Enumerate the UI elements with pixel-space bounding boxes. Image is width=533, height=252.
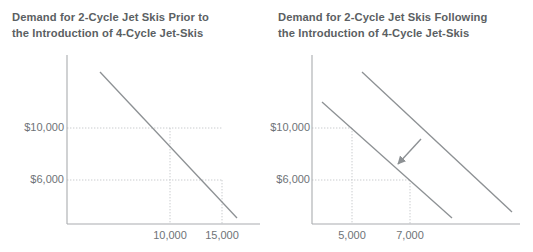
chart-panel-left: Demand for 2-Cycle Jet Skis Prior to the… (0, 0, 266, 252)
y-tick-label-10000: $10,000 (254, 121, 310, 133)
y-tick-label-10000: $10,000 (8, 121, 64, 133)
x-tick-label-5000: 5,000 (322, 229, 382, 241)
y-tick-label-6000: $6,000 (8, 173, 64, 185)
figure-container: Demand for 2-Cycle Jet Skis Prior to the… (0, 0, 533, 252)
x-tick-label-7000: 7,000 (380, 229, 440, 241)
chart-panel-right: Demand for 2-Cycle Jet Skis Following th… (266, 0, 533, 252)
demand-shift-arrow (398, 139, 421, 164)
demand-curve-original (362, 72, 512, 212)
x-tick-label-15000: 15,000 (188, 229, 256, 241)
demand-curve (100, 72, 237, 218)
y-tick-label-6000: $6,000 (254, 173, 310, 185)
demand-curve-shifted (322, 102, 452, 218)
